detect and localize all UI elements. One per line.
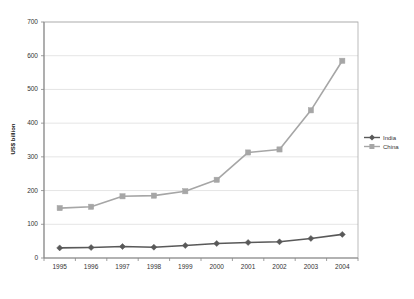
y-axis-tick-label: 100	[12, 220, 38, 227]
legend-label: India	[383, 135, 396, 141]
x-axis-tick-label: 2001	[231, 263, 265, 270]
data-point-china	[183, 189, 188, 194]
legend-item-china[interactable]: China	[364, 142, 399, 151]
data-point-china	[308, 108, 313, 113]
x-axis-tick-label: 2002	[263, 263, 297, 270]
x-axis-tick-label: 2004	[325, 263, 359, 270]
line-chart: US$ billion 0100200300400500600700 19951…	[0, 0, 414, 299]
x-axis-tick-label: 1997	[106, 263, 140, 270]
data-point-china	[277, 147, 282, 152]
legend-marker-diamond-icon	[364, 133, 380, 142]
legend-label: China	[383, 144, 399, 150]
x-axis-tick-label: 2003	[294, 263, 328, 270]
data-point-china	[214, 177, 219, 182]
y-axis-tick-label: 600	[12, 52, 38, 59]
y-axis-tick-label: 0	[12, 254, 38, 261]
data-point-china	[120, 194, 125, 199]
data-point-china	[151, 193, 156, 198]
data-point-china	[246, 150, 251, 155]
y-axis-tick-label: 200	[12, 187, 38, 194]
y-axis-tick-label: 500	[12, 85, 38, 92]
x-axis-tick-label: 1999	[168, 263, 202, 270]
data-point-china	[89, 204, 94, 209]
data-point-china	[340, 58, 345, 63]
y-axis-tick-label: 700	[12, 18, 38, 25]
legend-item-india[interactable]: India	[364, 133, 399, 142]
y-axis-tick-label: 300	[12, 153, 38, 160]
plot-background	[44, 22, 358, 258]
x-axis-tick-label: 1996	[74, 263, 108, 270]
plot-area	[0, 0, 414, 299]
legend-marker-square-icon	[364, 142, 380, 151]
data-point-china	[57, 206, 62, 211]
x-axis-tick-label: 1998	[137, 263, 171, 270]
x-axis-tick-label: 1995	[43, 263, 77, 270]
chart-legend: IndiaChina	[364, 133, 399, 151]
y-axis-tick-label: 400	[12, 119, 38, 126]
x-axis-tick-label: 2000	[200, 263, 234, 270]
